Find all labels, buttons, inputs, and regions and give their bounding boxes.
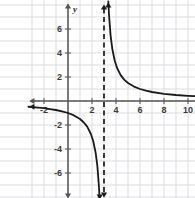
x-tick-label: 2 [89, 105, 94, 115]
y-tick-label: 4 [57, 48, 62, 58]
y-tick-label: 2 [57, 72, 62, 82]
y-axis-arrow-up [65, 4, 71, 9]
x-tick-label: 4 [113, 105, 118, 115]
y-tick-label: -2 [54, 120, 62, 130]
x-tick-label: -2 [40, 105, 48, 115]
y-tick-label: -6 [54, 168, 62, 178]
left-branch-arrow-down [97, 195, 103, 198]
x-tick-label: 10 [183, 105, 193, 115]
curve-left-branch [28, 107, 99, 198]
rational-function-graph: -2246810-6-4-2246xy [0, 0, 195, 198]
x-tick-label: 8 [161, 105, 166, 115]
y-tick-label: -4 [54, 144, 62, 154]
x-tick-label: 6 [137, 105, 142, 115]
coordinate-plane: -2246810-6-4-2246xy [0, 0, 195, 198]
y-tick-label: 6 [57, 24, 62, 34]
axis-names: xy [72, 4, 195, 115]
